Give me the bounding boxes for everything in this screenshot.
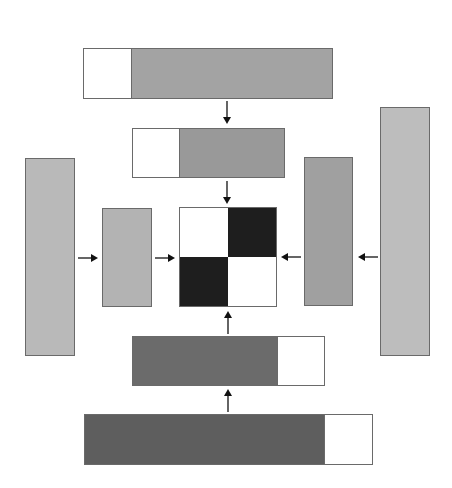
center-grid bbox=[179, 207, 277, 307]
grid-cell-top-left bbox=[180, 208, 228, 257]
grid-cell-top-right bbox=[228, 208, 276, 257]
arrow-down-icon bbox=[222, 181, 232, 205]
right-inner-bar bbox=[304, 157, 353, 306]
bottom-inner-bar-white-segment bbox=[277, 337, 324, 385]
arrow-right-icon bbox=[78, 253, 99, 263]
left-outer-bar bbox=[25, 158, 75, 356]
arrow-right-icon bbox=[155, 253, 176, 263]
left-inner-bar bbox=[102, 208, 152, 307]
right-outer-bar bbox=[380, 107, 430, 356]
bottom-outer-bar-white-segment bbox=[324, 415, 372, 464]
grid-cell-bottom-right bbox=[228, 257, 276, 306]
grid-cell-bottom-left bbox=[180, 257, 228, 306]
bottom-inner-bar bbox=[132, 336, 325, 386]
bottom-outer-bar bbox=[84, 414, 373, 465]
top-outer-bar bbox=[83, 48, 333, 99]
arrow-up-icon bbox=[223, 310, 233, 334]
arrow-left-icon bbox=[357, 252, 378, 262]
arrow-down-icon bbox=[222, 101, 232, 125]
arrow-up-icon bbox=[223, 388, 233, 412]
top-outer-bar-white-segment bbox=[84, 49, 132, 98]
top-inner-bar-white-segment bbox=[133, 129, 180, 177]
arrow-left-icon bbox=[280, 252, 301, 262]
top-inner-bar bbox=[132, 128, 285, 178]
